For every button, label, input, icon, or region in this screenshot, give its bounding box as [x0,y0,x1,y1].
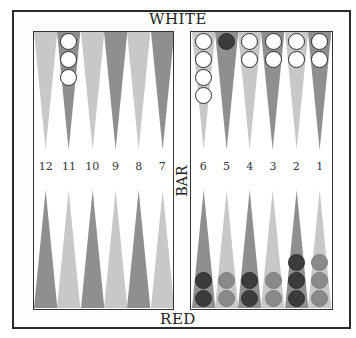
outer-board: 121110987 [33,31,174,310]
checker-white[interactable] [195,51,212,68]
home-board: 654321 [190,31,333,310]
point-number: 7 [151,160,174,173]
point-9[interactable] [104,190,127,308]
point-number: 9 [104,160,127,173]
checker-white[interactable] [265,33,282,50]
checker-red-light[interactable] [311,254,328,271]
point-10[interactable] [81,190,104,308]
point-top[interactable] [104,32,127,150]
point-number: 4 [238,160,261,173]
checker-red-light[interactable] [311,290,328,307]
checker-red-dark[interactable] [218,33,235,50]
checker-white[interactable] [265,51,282,68]
point-8[interactable] [127,190,150,308]
checker-white[interactable] [288,51,305,68]
red-side-label: RED [0,310,356,328]
point-top[interactable] [34,32,57,150]
checker-red-dark[interactable] [195,290,212,307]
checker-white[interactable] [195,33,212,50]
checker-red-light[interactable] [311,272,328,289]
point-number: 5 [215,160,238,173]
checker-red-dark[interactable] [288,254,305,271]
checker-white[interactable] [311,51,328,68]
checker-white[interactable] [195,87,212,104]
point-11[interactable] [57,190,80,308]
point-top[interactable] [151,32,174,150]
point-number: 3 [261,160,284,173]
checker-red-dark[interactable] [195,272,212,289]
point-number: 6 [192,160,215,173]
bar-label: BAR [174,166,190,197]
point-top[interactable] [127,32,150,150]
checker-white[interactable] [195,69,212,86]
point-7[interactable] [151,190,174,308]
point-number: 11 [57,160,80,173]
white-side-label: WHITE [0,10,356,28]
checker-red-dark[interactable] [288,290,305,307]
checker-red-light[interactable] [218,272,235,289]
checker-white[interactable] [288,33,305,50]
checker-red-light[interactable] [218,290,235,307]
point-number: 1 [308,160,331,173]
checker-white[interactable] [311,33,328,50]
point-12[interactable] [34,190,57,308]
point-number: 12 [34,160,57,173]
point-number: 10 [81,160,104,173]
point-number: 8 [127,160,150,173]
checker-red-light[interactable] [265,290,282,307]
checker-red-light[interactable] [265,272,282,289]
point-top[interactable] [81,32,104,150]
point-number: 2 [285,160,308,173]
checker-red-dark[interactable] [288,272,305,289]
